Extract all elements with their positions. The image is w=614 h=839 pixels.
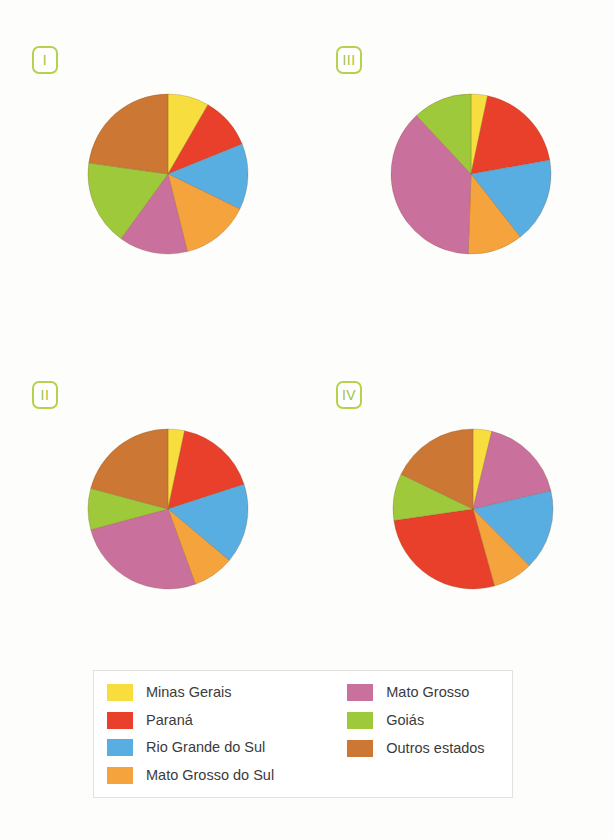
legend-label: Rio Grande do Sul <box>146 739 265 756</box>
legend-label: Paraná <box>146 712 193 729</box>
legend-swatch-parana <box>107 712 133 729</box>
legend: Minas GeraisParanáRio Grande do SulMato … <box>93 670 513 798</box>
chart-badge-iii: III <box>336 46 362 74</box>
legend-item: Goiás <box>347 710 512 731</box>
legend-swatch-mato-grosso <box>347 684 373 701</box>
chart-badge-i: I <box>32 46 58 74</box>
figure-page: I II III IV Minas GeraisParanáRio Grande… <box>0 0 614 839</box>
pie-slice <box>89 94 168 174</box>
legend-swatch-mato-grosso-do-sul <box>107 767 133 784</box>
legend-swatch-goias <box>347 712 373 729</box>
legend-swatch-rio-grande-do-sul <box>107 739 133 756</box>
pie-chart-iv <box>392 428 554 590</box>
legend-label: Mato Grosso <box>386 684 469 701</box>
pie-chart-ii <box>87 428 249 590</box>
legend-swatch-outros-estados <box>347 740 373 757</box>
legend-item: Outros estados <box>347 738 512 759</box>
legend-item: Mato Grosso <box>347 682 512 703</box>
pie-chart-iii <box>390 93 552 255</box>
legend-item: Mato Grosso do Sul <box>107 765 347 786</box>
legend-column-left: Minas GeraisParanáRio Grande do SulMato … <box>107 682 347 786</box>
legend-column-right: Mato GrossoGoiásOutros estados <box>347 682 512 786</box>
legend-label: Mato Grosso do Sul <box>146 767 274 784</box>
legend-item: Minas Gerais <box>107 682 347 703</box>
pie-chart-i <box>87 93 249 255</box>
legend-label: Outros estados <box>386 740 484 757</box>
legend-item: Rio Grande do Sul <box>107 738 347 759</box>
legend-swatch-minas-gerais <box>107 684 133 701</box>
legend-item: Paraná <box>107 710 347 731</box>
chart-badge-iv: IV <box>336 381 362 409</box>
chart-badge-ii: II <box>32 381 58 409</box>
legend-label: Minas Gerais <box>146 684 231 701</box>
legend-label: Goiás <box>386 712 424 729</box>
top-cut-caption <box>48 0 308 6</box>
